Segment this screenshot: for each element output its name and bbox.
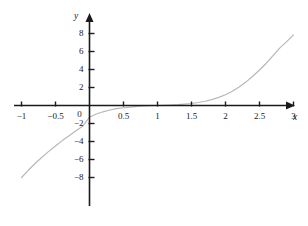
y-tick-label: −4: [64, 137, 84, 146]
x-tick-label: −1: [12, 112, 32, 121]
y-tick-label: 6: [64, 47, 84, 56]
x-axis-label: x: [293, 113, 297, 123]
y-tick-label: 2: [64, 83, 84, 92]
y-tick-label: −6: [64, 155, 84, 164]
figure-canvas: −1−0.500.511.522.53 −8−6−4−22468 x y: [0, 0, 308, 226]
y-axis-label: y: [74, 12, 78, 22]
y-tick-label: 4: [64, 65, 84, 74]
x-tick-label: −0.5: [46, 112, 66, 121]
axes-group: [14, 13, 295, 206]
x-tick-label: 1.5: [182, 112, 202, 121]
y-axis-arrow: [86, 13, 94, 22]
x-tick-label: 0.5: [114, 112, 134, 121]
x-tick-label: 2.5: [250, 112, 270, 121]
y-tick-label: 8: [64, 29, 84, 38]
y-tick-label: −8: [64, 173, 84, 182]
y-tick-label: −2: [64, 119, 84, 128]
x-tick-label: 1: [148, 112, 168, 121]
x-tick-label: 2: [216, 112, 236, 121]
